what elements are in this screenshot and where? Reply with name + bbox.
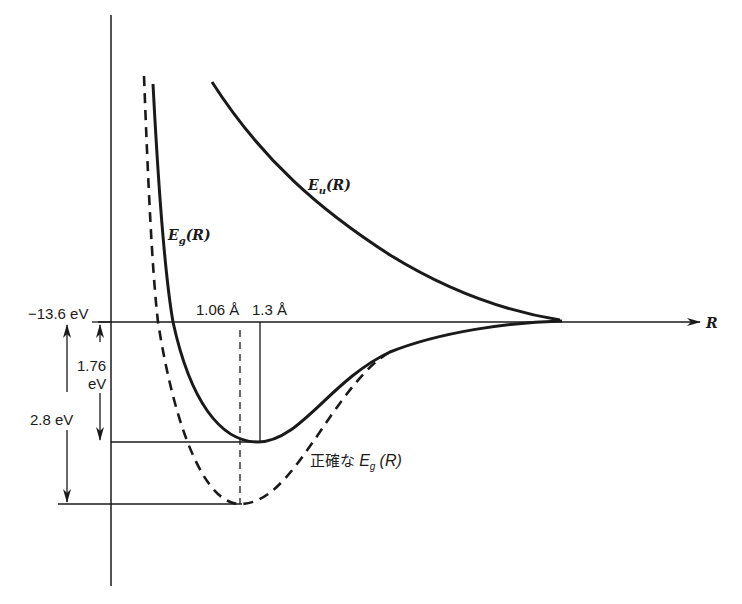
- potential-energy-diagram: −13.6 eV 1.06 Å 1.3 Å R 1.76 eV 2.8 eV E…: [0, 0, 742, 604]
- depth2-label: 2.8 eV: [30, 412, 73, 427]
- depth1-unit: eV: [88, 376, 106, 391]
- r-axis-label: R: [706, 316, 718, 330]
- exact-eg-label: 正確な Eg (R): [310, 453, 402, 472]
- eu-label: Eu(R): [308, 178, 351, 196]
- curve-eu: [212, 82, 560, 320]
- r2-label: 1.3 Å: [252, 302, 287, 317]
- zero-level-label: −13.6 eV: [28, 306, 88, 321]
- depth1-value: 1.76: [77, 358, 106, 373]
- eg-label: Eg(R): [168, 228, 211, 246]
- curve-eg: [153, 84, 562, 442]
- diagram-graphics: [0, 0, 742, 604]
- r1-label: 1.06 Å: [196, 302, 239, 317]
